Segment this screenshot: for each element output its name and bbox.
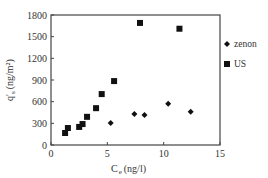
data-point-zenon bbox=[131, 111, 137, 117]
square-marker-icon bbox=[224, 61, 230, 67]
y-axis-label: q's(ng/m²) bbox=[4, 59, 17, 101]
data-point-zenon bbox=[142, 112, 148, 118]
data-point-us bbox=[80, 121, 86, 127]
data-points bbox=[62, 20, 194, 136]
x-tick-label: 15 bbox=[215, 148, 225, 159]
data-point-us bbox=[93, 105, 99, 111]
data-point-zenon bbox=[188, 109, 194, 115]
legend-item-zenon: zenon bbox=[224, 39, 257, 49]
data-point-us bbox=[65, 125, 71, 131]
legend-label-us: US bbox=[234, 59, 246, 69]
y-tick-label: 600 bbox=[32, 96, 47, 107]
y-tick-label: 0 bbox=[42, 140, 47, 151]
y-tick-label: 900 bbox=[32, 75, 47, 86]
y-tick-label: 300 bbox=[32, 118, 47, 129]
legend-label-zenon: zenon bbox=[234, 39, 257, 49]
y-axis-ticks: 0300600900120015001800 bbox=[27, 10, 54, 151]
x-tick-label: 5 bbox=[105, 148, 110, 159]
data-point-us bbox=[84, 114, 90, 120]
y-tick-label: 1200 bbox=[27, 53, 47, 64]
x-axis-label: Ce(ng/l) bbox=[111, 163, 146, 176]
y-tick-label: 1800 bbox=[27, 10, 47, 21]
y-tick-label: 1500 bbox=[27, 31, 47, 42]
data-point-us bbox=[111, 78, 117, 84]
data-point-zenon bbox=[108, 120, 114, 126]
legend-item-us: US bbox=[224, 59, 246, 69]
x-tick-label: 0 bbox=[49, 148, 54, 159]
scatter-chart: 0300600900120015001800 051015 q's(ng/m²)… bbox=[0, 0, 268, 178]
x-tick-label: 10 bbox=[159, 148, 169, 159]
data-point-zenon bbox=[165, 101, 171, 107]
diamond-marker-icon bbox=[224, 41, 230, 47]
data-point-us bbox=[99, 91, 105, 97]
legend: zenon US bbox=[224, 39, 257, 69]
data-point-us bbox=[176, 26, 182, 32]
data-point-us bbox=[137, 20, 143, 26]
